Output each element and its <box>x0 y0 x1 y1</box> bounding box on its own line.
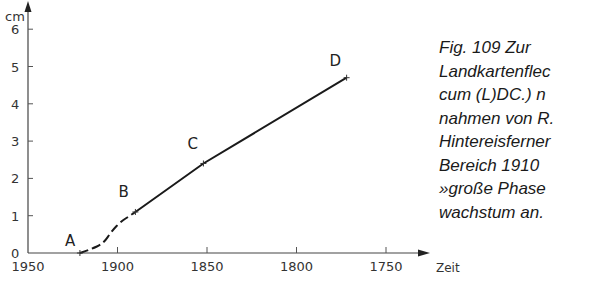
x-tick-label: 1900 <box>101 259 134 274</box>
x-axis-label: Zeit <box>436 261 460 275</box>
figure-caption: Fig. 109 Zur Landkartenflec cum (L)DC.) … <box>439 36 594 224</box>
solid-curve-segment <box>135 78 346 212</box>
caption-line: »große Phase <box>439 177 594 201</box>
point-label: B <box>118 183 128 201</box>
x-axis-arrow-icon <box>418 250 430 257</box>
y-tick-label: 1 <box>11 209 19 224</box>
data-point-c: C <box>187 135 206 166</box>
y-tick-label: 6 <box>11 22 19 37</box>
x-tick-label: 1800 <box>280 259 313 274</box>
y-tick-label: 2 <box>11 171 19 186</box>
x-tick-label: 1750 <box>369 259 402 274</box>
y-tick-label: 4 <box>11 97 19 112</box>
x-tick-label: 1950 <box>11 259 44 274</box>
caption-line: cum (L)DC.) n <box>439 83 594 107</box>
data-points: ABCD <box>65 52 350 256</box>
dashed-curve-segment <box>80 212 135 253</box>
point-label: D <box>330 52 342 70</box>
caption-line: Hintereisferner <box>439 130 594 154</box>
x-ticks: 19501900185018001750 <box>11 247 402 274</box>
caption-line: Bereich 1910 <box>439 154 594 178</box>
y-axis-arrow-icon <box>25 1 32 12</box>
point-label: A <box>65 232 76 250</box>
caption-line: Fig. 109 Zur <box>439 36 594 60</box>
caption-line: wachstum an. <box>439 201 594 225</box>
y-axis-unit-label: cm <box>5 9 25 24</box>
x-tick-label: 1850 <box>190 259 223 274</box>
caption-line: Landkartenflec <box>439 60 594 84</box>
y-ticks: 0123456 <box>11 22 33 261</box>
y-tick-label: 3 <box>11 134 19 149</box>
y-tick-label: 5 <box>11 60 19 75</box>
data-point-d: D <box>330 52 350 81</box>
caption-line: nahmen von R. <box>439 107 594 131</box>
data-point-b: B <box>118 183 138 215</box>
point-label: C <box>187 135 197 153</box>
